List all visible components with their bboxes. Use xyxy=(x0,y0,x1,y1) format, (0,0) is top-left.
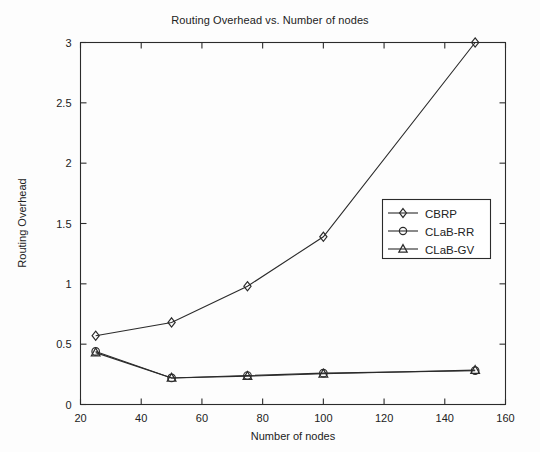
figure-canvas: Routing Overhead vs. Number of nodes Rou… xyxy=(0,0,540,452)
chart-legend[interactable]: CBRPCLaB-RRCLaB-GV xyxy=(383,200,491,259)
series-line xyxy=(96,43,475,336)
y-tick-label: 2 xyxy=(65,157,71,169)
x-tick-label: 120 xyxy=(375,412,393,424)
y-tick-label: 0.5 xyxy=(56,338,71,350)
y-axis-label: Routing Overhead xyxy=(16,178,28,267)
legend-label: CBRP xyxy=(425,208,457,220)
y-tick-label: 3 xyxy=(65,37,71,49)
x-tick-label: 80 xyxy=(257,412,269,424)
series-clab-gv xyxy=(91,348,479,381)
x-tick-label: 40 xyxy=(135,412,147,424)
series-cbrp xyxy=(92,38,479,340)
x-tick-label: 20 xyxy=(74,412,86,424)
x-tick-label: 160 xyxy=(496,412,514,424)
x-tick-label: 100 xyxy=(314,412,332,424)
x-tick-label: 140 xyxy=(436,412,454,424)
chart-plot-area: Routing Overhead Number of nodes 00.511.… xyxy=(0,0,540,452)
y-tick-label: 1.5 xyxy=(56,218,71,230)
series-clab-rr xyxy=(92,348,479,382)
x-axis-label: Number of nodes xyxy=(251,430,336,442)
x-tick-label: 60 xyxy=(196,412,208,424)
y-tick-label: 0 xyxy=(65,399,71,411)
legend-label: CLaB-RR xyxy=(425,226,474,238)
y-tick-label: 2.5 xyxy=(56,97,71,109)
legend-label: CLaB-GV xyxy=(425,244,475,256)
y-tick-label: 1 xyxy=(65,278,71,290)
series-line xyxy=(96,351,475,378)
